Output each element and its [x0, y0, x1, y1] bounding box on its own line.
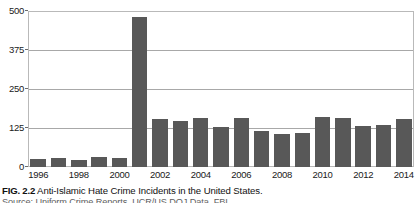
figure-number: FIG. 2.2 — [2, 185, 35, 196]
bar-2002 — [152, 119, 167, 167]
x-tick-label-2006: 2006 — [231, 169, 251, 180]
y-tick-label-375: 375 — [0, 45, 24, 55]
caption-line-primary: FIG. 2.2 Anti-Islamic Hate Crime Inciden… — [2, 185, 416, 196]
bar-1996 — [30, 159, 45, 167]
bar-2009 — [295, 133, 310, 167]
bar-1997 — [51, 158, 66, 167]
x-tick-label-2014: 2014 — [394, 169, 414, 180]
y-tick-label-125: 125 — [0, 123, 24, 133]
caption-text: Anti-Islamic Hate Crime Incidents in the… — [37, 185, 262, 196]
bar-2000 — [112, 158, 127, 167]
x-tick-label-2004: 2004 — [191, 169, 211, 180]
x-tick-label-1998: 1998 — [69, 169, 89, 180]
bar-2005 — [213, 127, 228, 167]
y-tick-label-250: 250 — [0, 84, 24, 94]
bar-2008 — [274, 134, 289, 167]
x-tick-label-2008: 2008 — [272, 169, 292, 180]
x-tick-label-2012: 2012 — [353, 169, 373, 180]
bar-2014 — [396, 119, 411, 167]
bar-1999 — [91, 157, 106, 167]
bar-2013 — [376, 125, 391, 167]
bar-2003 — [173, 121, 188, 167]
x-tick-label-2002: 2002 — [150, 169, 170, 180]
bar-1998 — [71, 160, 86, 167]
bar-2010 — [315, 117, 330, 167]
figure-caption: FIG. 2.2 Anti-Islamic Hate Crime Inciden… — [2, 185, 416, 203]
bar-2011 — [335, 118, 350, 167]
x-tick-label-2000: 2000 — [109, 169, 129, 180]
bar-2012 — [355, 126, 370, 167]
x-tick-label-1996: 1996 — [28, 169, 48, 180]
bar-2006 — [234, 118, 249, 167]
bar-2004 — [193, 118, 208, 167]
x-tick-label-2010: 2010 — [313, 169, 333, 180]
caption-source-line: Source: Uniform Crime Reports, UCR/US DO… — [2, 197, 416, 203]
x-axis-labels: 1996199820002002200420062008201020122014 — [28, 169, 414, 181]
figure-container: 0125250375500 19961998200020022004200620… — [0, 0, 417, 205]
bar-2007 — [254, 131, 269, 167]
bar-2001 — [132, 17, 147, 167]
y-tick-label-0: 0 — [0, 162, 24, 172]
bar-series — [28, 11, 414, 167]
y-tick-label-500: 500 — [0, 6, 24, 16]
